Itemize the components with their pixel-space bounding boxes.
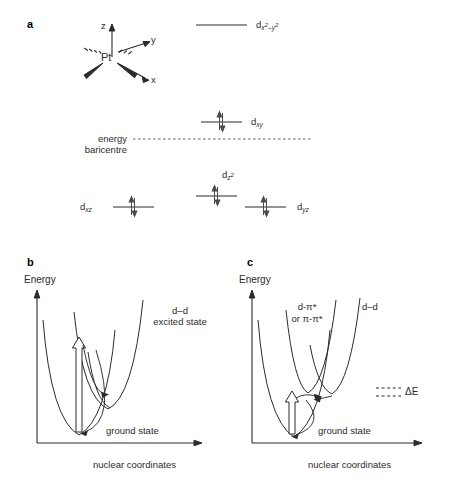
c-arrow-return-ground-path — [296, 400, 314, 435]
c-x-axis-label: nuclear coordinates — [308, 459, 391, 470]
panel-c-graphics — [0, 0, 450, 486]
c-curve-label-dd: d–d — [362, 301, 378, 312]
c-x-axis-arrowhead — [414, 440, 422, 446]
c-y-axis-arrowhead — [249, 290, 255, 298]
c-y-axis-label: Energy — [239, 274, 271, 285]
c-delta-e-marker — [376, 388, 401, 396]
c-curve-label-ct-line1: d-π* — [277, 301, 337, 312]
c-curve-label-ground-state: ground state — [318, 425, 371, 436]
c-delta-e-label: ΔE — [405, 386, 418, 397]
figure-root: a — [0, 0, 450, 486]
c-curve-label-ct-line2: or π-π* — [277, 313, 337, 324]
